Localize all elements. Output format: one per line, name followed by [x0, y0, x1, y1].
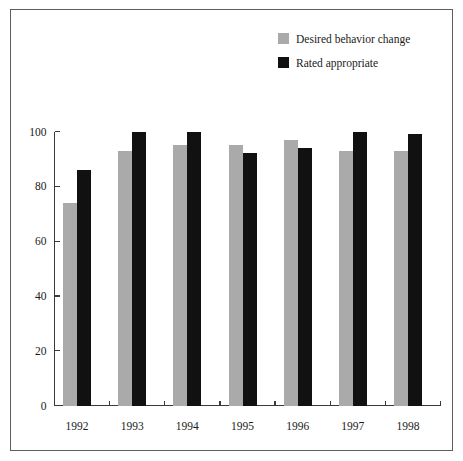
x-tick-label: 1992: [66, 420, 89, 432]
bar-1998-series1: [394, 151, 408, 406]
x-tick-label: 1994: [176, 420, 199, 432]
bar-1994-series2: [187, 132, 201, 406]
y-tick-label: 0: [41, 400, 47, 412]
bar-1993-series1: [118, 151, 132, 406]
bar-1995-series1: [229, 145, 243, 405]
legend: Desired behavior changeRated appropriate: [278, 33, 410, 70]
bar-1995-series2: [243, 153, 257, 405]
bar-1996-series1: [284, 140, 298, 406]
x-tick-label: 1997: [341, 420, 364, 432]
legend-swatch-2: [278, 57, 289, 68]
legend-label-2: Rated appropriate: [296, 57, 378, 70]
bar-1992-series1: [63, 203, 77, 406]
bar-1997-series2: [353, 132, 367, 406]
x-tick-label: 1996: [286, 420, 309, 432]
legend-swatch-1: [278, 33, 289, 44]
x-tick-label: 1993: [121, 420, 144, 432]
y-tick-label: 40: [35, 290, 47, 302]
figure-container: 0204060801001992199319941995199619971998…: [0, 0, 463, 461]
bars-group: [63, 132, 422, 406]
bar-1997-series1: [339, 151, 353, 406]
bar-chart: 0204060801001992199319941995199619971998…: [0, 0, 463, 461]
x-tick-label: 1998: [396, 420, 419, 432]
bar-1998-series2: [408, 134, 422, 405]
y-tick-label: 80: [35, 180, 47, 192]
legend-label-1: Desired behavior change: [296, 33, 410, 46]
bar-1992-series2: [77, 170, 91, 406]
bar-1996-series2: [298, 148, 312, 406]
y-tick-label: 100: [29, 126, 47, 138]
x-tick-label: 1995: [231, 420, 254, 432]
y-tick-label: 20: [35, 345, 47, 357]
bar-1993-series2: [132, 132, 146, 406]
bar-1994-series1: [173, 145, 187, 405]
y-tick-label: 60: [35, 235, 47, 247]
